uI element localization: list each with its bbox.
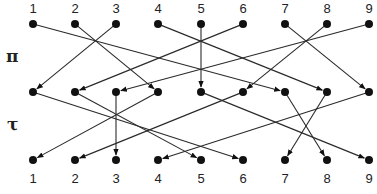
- tau-edge-6-to-2: [80, 93, 241, 158]
- top-node-5: [197, 20, 205, 28]
- bottom-node-2: [71, 156, 79, 164]
- top-node-8: [323, 20, 331, 28]
- tau-edge-7-to-8: [287, 95, 325, 156]
- tau-edge-5-to-9: [204, 93, 365, 158]
- bottom-node-6: [239, 156, 247, 164]
- top-label-1: 1: [29, 2, 36, 15]
- bottom-label-6: 6: [239, 172, 246, 185]
- bottom-label-7: 7: [281, 172, 288, 185]
- bottom-node-1: [29, 156, 37, 164]
- top-label-6: 6: [239, 2, 246, 15]
- bottom-node-9: [365, 156, 373, 164]
- top-node-7: [281, 20, 289, 28]
- tau-symbol: τ: [7, 116, 18, 133]
- middle-node-9: [365, 88, 373, 96]
- top-node-6: [239, 20, 247, 28]
- middle-node-7: [281, 88, 289, 96]
- bottom-label-4: 4: [154, 172, 161, 185]
- middle-node-1: [29, 88, 37, 96]
- bottom-node-3: [112, 156, 120, 164]
- top-label-7: 7: [281, 2, 288, 15]
- bottom-label-8: 8: [323, 172, 330, 185]
- diagram-canvas: [0, 0, 377, 194]
- top-node-4: [154, 20, 162, 28]
- bottom-label-2: 2: [71, 172, 78, 185]
- permutation-diagram: 123456789 123456789 π τ: [0, 0, 377, 194]
- pi-edge-2-to-4: [77, 26, 154, 89]
- bottom-node-8: [323, 156, 331, 164]
- bottom-label-3: 3: [112, 172, 119, 185]
- tau-edge-9-to-4: [163, 93, 366, 159]
- bottom-node-7: [281, 156, 289, 164]
- bottom-node-5: [197, 156, 205, 164]
- top-label-5: 5: [197, 2, 204, 15]
- bottom-label-5: 5: [197, 172, 204, 185]
- bottom-node-4: [154, 156, 162, 164]
- middle-node-3: [112, 88, 120, 96]
- top-label-4: 4: [154, 2, 161, 15]
- pi-edge-8-to-6: [247, 26, 325, 89]
- middle-node-6: [239, 88, 247, 96]
- top-label-3: 3: [112, 2, 119, 15]
- middle-node-4: [154, 88, 162, 96]
- top-label-8: 8: [323, 2, 330, 15]
- middle-node-8: [323, 88, 331, 96]
- top-label-9: 9: [365, 2, 372, 15]
- tau-edge-8-to-7: [288, 95, 326, 156]
- top-node-1: [29, 20, 37, 28]
- top-node-2: [71, 20, 79, 28]
- bottom-label-9: 9: [365, 172, 372, 185]
- top-node-9: [365, 20, 373, 28]
- pi-symbol: π: [6, 48, 18, 65]
- top-node-3: [112, 20, 120, 28]
- middle-node-2: [71, 88, 79, 96]
- top-label-2: 2: [71, 2, 78, 15]
- bottom-label-1: 1: [29, 172, 36, 185]
- middle-node-5: [197, 88, 205, 96]
